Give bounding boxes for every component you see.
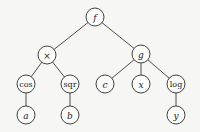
node-mul: × <box>38 46 56 64</box>
node-b: b <box>61 106 79 124</box>
edge-mul-sqr <box>53 62 65 77</box>
node-log: log <box>167 75 185 93</box>
node-c: c <box>96 75 114 93</box>
node-sqr: sqr <box>61 75 79 93</box>
node-label: c <box>102 80 107 90</box>
node-label: sqr <box>63 80 76 89</box>
node-y: y <box>167 106 185 124</box>
node-label: b <box>67 111 73 121</box>
edge-f-mul <box>54 23 88 50</box>
edge-g-c <box>112 60 134 78</box>
edge-f-g <box>102 23 134 49</box>
node-cos: cos <box>17 75 35 93</box>
edge-g-log <box>148 60 169 78</box>
node-label: cos <box>19 80 32 89</box>
node-label: log <box>170 80 183 89</box>
node-g: g <box>132 45 150 63</box>
node-x: x <box>132 75 150 93</box>
expression-tree-diagram: f×gcossqrcxlogaby <box>0 0 200 132</box>
tree-nodes: f×gcossqrcxlogaby <box>17 8 185 124</box>
node-label: a <box>23 111 28 121</box>
node-label: g <box>138 50 144 60</box>
node-a: a <box>17 106 35 124</box>
node-label: × <box>43 51 51 61</box>
node-label: x <box>138 80 143 90</box>
edge-mul-cos <box>31 62 41 76</box>
node-f: f <box>86 8 104 26</box>
node-label: y <box>172 111 179 121</box>
